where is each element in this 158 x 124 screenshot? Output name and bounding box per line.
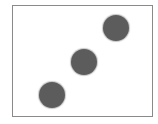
pip-bottom-left	[39, 82, 65, 108]
pip-center	[71, 49, 97, 75]
pip-top-right	[103, 15, 129, 41]
